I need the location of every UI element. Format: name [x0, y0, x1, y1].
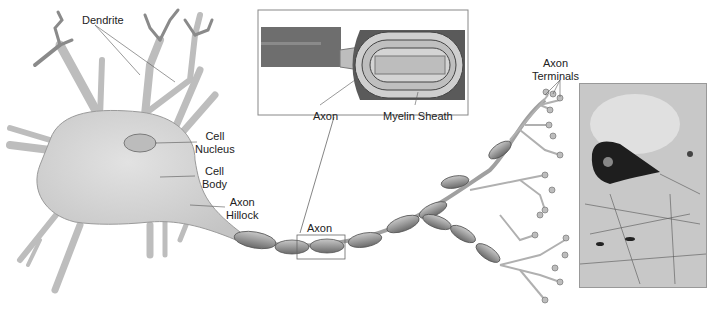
label-dendrite: Dendrite — [82, 14, 124, 27]
label-axon: Axon — [307, 222, 332, 235]
neuron-micrograph — [579, 83, 707, 288]
label-cell-body-line1: Cell — [205, 165, 224, 177]
label-cell-body: CellBody — [202, 165, 227, 191]
terminal-boutons — [532, 89, 569, 303]
label-axon-hillock-line2: Hillock — [226, 209, 258, 221]
cell-nucleus — [124, 134, 156, 152]
label-cell-body-line2: Body — [202, 178, 227, 190]
label-cell-nucleus: CellNucleus — [195, 130, 235, 156]
label-axon-hillock-line1: Axon — [230, 196, 255, 208]
myelin-inset — [258, 10, 468, 115]
label-cell-nucleus-line1: Cell — [205, 130, 224, 142]
label-myelin-sheath: Myelin Sheath — [383, 110, 453, 123]
label-axon-terminals-line1: Axon — [543, 57, 568, 69]
label-axon-terminals: AxonTerminals — [532, 57, 579, 83]
myelin-segments — [233, 138, 514, 266]
label-cell-nucleus-line2: Nucleus — [195, 143, 235, 155]
label-axon-terminals-line2: Terminals — [532, 70, 579, 82]
label-inset-axon: Axon — [313, 110, 338, 123]
label-axon-hillock: AxonHillock — [226, 196, 258, 222]
